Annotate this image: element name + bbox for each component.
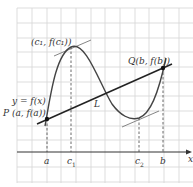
x-axis [17,150,192,155]
tick-c1-sub: 1 [72,161,76,168]
point-q [161,66,165,70]
tangent-lines [54,40,159,127]
label-function: y = f(x) [11,96,46,106]
label-q-point: Q(b, f(b)) [128,56,170,66]
tick-a: a [44,156,49,166]
label-p-point: P (a, f(a)) [2,108,46,118]
label-secant-L: L [93,99,100,109]
tick-b: b [160,156,166,166]
label-x-axis: x [188,154,193,164]
tangent-at-c2 [122,111,159,127]
label-max-point: (c₁, f(c₁)) [31,37,72,47]
secant-line-L [37,64,172,124]
mean-value-theorem-diagram: (c₁, f(c₁)) Q(b, f(b)) y = f(x) P (a, f(… [0,0,193,187]
tick-c2-sub: 2 [140,161,144,168]
